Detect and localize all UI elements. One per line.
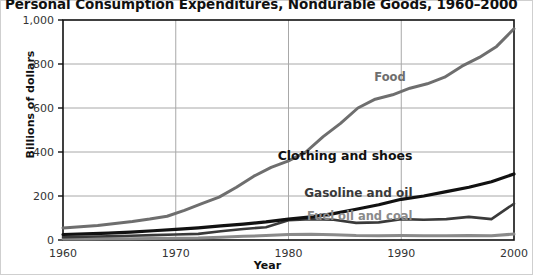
series-label-fuel-oil-and-coal: Fuel oil and coal [307,209,413,223]
chart-plot-area: 02004006008001,00019601970198019902000Fo… [1,1,533,275]
y-tick-label: 1,000 [23,14,55,27]
series-label-gasoline-and-oil: Gasoline and oil [304,186,412,200]
y-axis-label: Billions of dollars [24,45,37,165]
y-tick-label: 0 [47,234,54,247]
chart-figure: Personal Consumption Expenditures, Nondu… [0,0,533,275]
x-axis-label: Year [1,259,533,272]
series-label-food: Food [374,70,405,84]
y-tick-label: 200 [33,190,54,203]
series-label-clothing-and-shoes: Clothing and shoes [278,148,413,163]
